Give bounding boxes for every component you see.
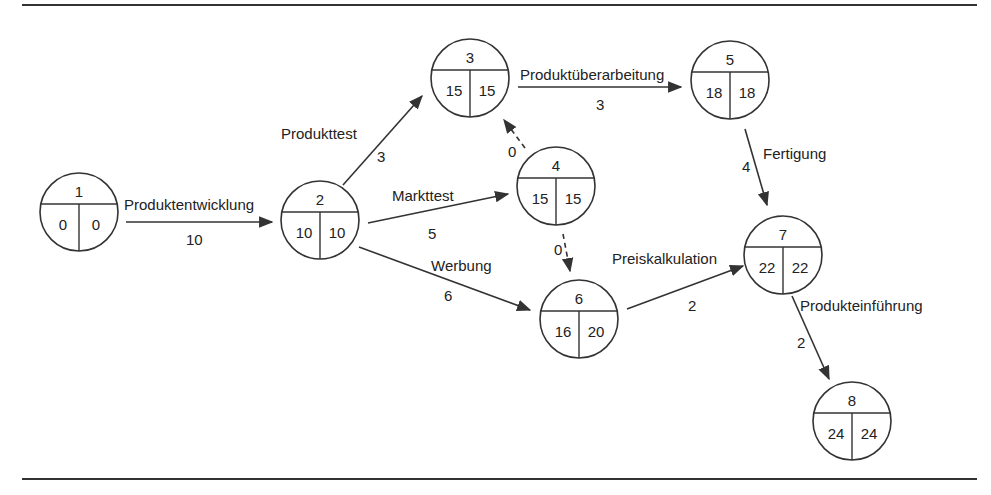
activity-arrow	[627, 266, 743, 309]
node-2: 21010	[281, 181, 359, 259]
node-earliest-time: 15	[532, 190, 549, 207]
activity-duration: 4	[742, 158, 750, 175]
node-earliest-time: 10	[296, 224, 313, 241]
node-id: 6	[575, 290, 583, 307]
node-latest-time: 24	[861, 425, 878, 442]
node-8: 82424	[813, 382, 891, 460]
edge-2-4: Markttest5	[368, 187, 508, 242]
node-5: 51818	[691, 41, 769, 119]
node-earliest-time: 22	[759, 259, 776, 276]
activity-duration: 3	[377, 148, 385, 165]
activity-duration: 5	[428, 225, 436, 242]
edge-1-2: Produktentwicklung10	[124, 196, 272, 248]
edge-4-3: 0	[504, 120, 525, 160]
node-latest-time: 10	[329, 224, 346, 241]
activity-duration: 6	[444, 287, 452, 304]
edge-5-7: Fertigung4	[742, 129, 826, 205]
activity-duration: 0	[554, 241, 562, 258]
node-latest-time: 15	[479, 82, 496, 99]
node-6: 61620	[540, 280, 618, 358]
activity-duration: 10	[186, 231, 203, 248]
dummy-arrow	[563, 234, 570, 271]
edge-3-5: Produktüberarbeitung3	[518, 66, 681, 113]
node-3: 31515	[431, 39, 509, 117]
node-earliest-time: 18	[706, 84, 723, 101]
node-latest-time: 22	[792, 259, 809, 276]
edge-4-6: 0	[554, 234, 570, 271]
node-id: 7	[779, 226, 787, 243]
node-earliest-time: 24	[828, 425, 845, 442]
edge-2-6: Werbung6	[359, 247, 530, 310]
activity-label: Markttest	[392, 187, 455, 204]
node-id: 8	[848, 392, 856, 409]
node-earliest-time: 15	[446, 82, 463, 99]
node-id: 3	[466, 49, 474, 66]
node-latest-time: 0	[92, 216, 100, 233]
activity-label: Preiskalkulation	[612, 250, 717, 267]
edge-6-7: Preiskalkulation2	[612, 250, 743, 314]
node-id: 5	[726, 51, 734, 68]
network-diagram: Produktentwicklung10Produkttest3Markttes…	[0, 0, 991, 495]
activity-label: Produkteinführung	[800, 297, 923, 314]
activity-label: Produktüberarbeitung	[520, 66, 664, 83]
node-latest-time: 18	[739, 84, 756, 101]
node-id: 4	[552, 157, 560, 174]
node-1: 100	[40, 173, 118, 251]
node-id: 2	[316, 191, 324, 208]
edge-2-3: Produkttest3	[281, 96, 422, 185]
node-id: 1	[75, 183, 83, 200]
activity-label: Werbung	[431, 257, 492, 274]
activity-duration: 0	[508, 143, 516, 160]
node-7: 72222	[744, 216, 822, 294]
activity-label: Fertigung	[763, 145, 826, 162]
node-4: 41515	[517, 147, 595, 225]
node-earliest-time: 16	[555, 323, 572, 340]
activity-duration: 2	[797, 334, 805, 351]
activity-duration: 3	[596, 96, 604, 113]
activity-label: Produkttest	[281, 125, 358, 142]
node-earliest-time: 0	[59, 216, 67, 233]
node-latest-time: 20	[588, 323, 605, 340]
node-latest-time: 15	[565, 190, 582, 207]
activity-label: Produktentwicklung	[124, 196, 254, 213]
edge-7-8: Produkteinführung2	[792, 296, 923, 379]
nodes-layer: 10021010315154151551818616207222282424	[40, 39, 891, 460]
activity-duration: 2	[688, 297, 696, 314]
